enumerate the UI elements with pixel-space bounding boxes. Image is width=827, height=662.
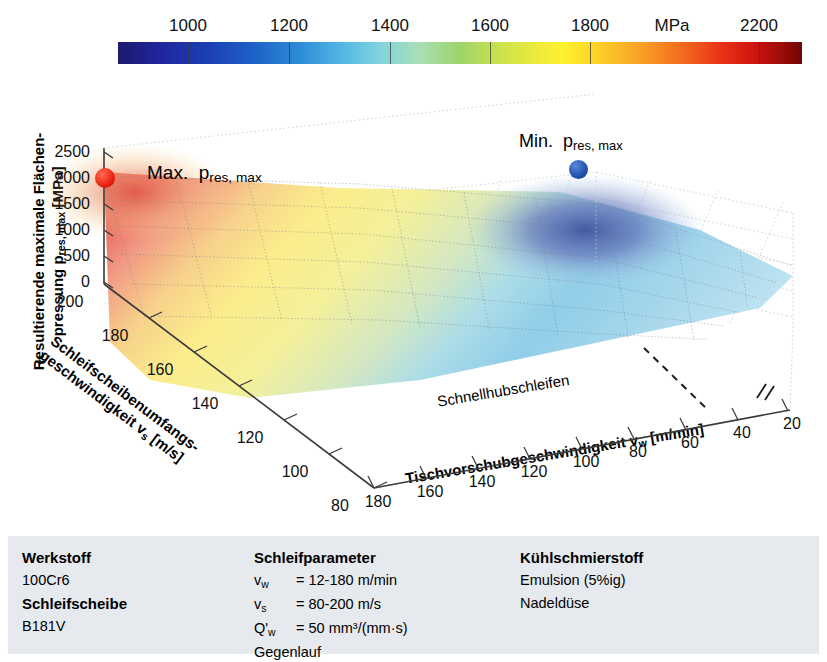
colorbar: 10001200140016001800MPa2200 [118,16,802,68]
region-boundary-dashed [644,348,708,410]
colorbar-tick [590,42,591,64]
info-column-coolant: Kühlschmierstoff Emulsion (5%ig) Nadeldü… [520,546,643,614]
colorbar-label: 1000 [169,16,207,36]
parameter-value: = 12-180 m/min [296,569,397,593]
z-tick-label: 140 [192,395,219,413]
x-axis-ticks [368,399,788,488]
colorbar-gradient [118,42,802,64]
z-tick-label: 80 [331,497,349,515]
colorbar-tick [188,42,189,64]
z-tick-label: 180 [102,327,129,345]
z-tick-label: 100 [282,463,309,481]
chart-figure: 10001200140016001800MPa2200 Resultierend… [0,0,827,662]
min-annotation: Min. pres, max [519,131,623,153]
coolant-value2: Nadeldüse [520,592,643,614]
max-marker-dot [95,168,115,188]
surface-plot [0,80,827,530]
z-tick-label: 160 [147,361,174,379]
parameter-value: = 50 mm³/(mm·s) [296,617,408,641]
min-marker-dot [569,160,588,179]
info-column-workpiece: Werkstoff 100Cr6 Schleifscheibe B181V [22,546,127,637]
colorbar-label: 2200 [740,16,778,36]
parameter-info-panel: Werkstoff 100Cr6 Schleifscheibe B181V Sc… [8,536,819,654]
y-tick-label: 0 [28,273,90,291]
x-tick-label: 20 [783,415,801,433]
parameter-symbol: vw [254,569,296,593]
y-tick-label: 1000 [28,221,90,239]
colorbar-label: 1600 [471,16,509,36]
parameter-value: = 80-200 m/s [296,593,381,617]
z-tick-label: 120 [237,429,264,447]
coolant-heading: Kühlschmierstoff [520,546,643,569]
colorbar-label: 1400 [371,16,409,36]
wheel-value: B181V [22,615,127,637]
info-column-parameters: Schleifparameter vw= 12-180 m/minvs= 80-… [254,546,408,662]
x-tick-label: 40 [733,424,751,442]
colorbar-labels: 10001200140016001800MPa2200 [118,16,802,40]
colorbar-label: MPa [655,16,690,36]
x-tick-label: 120 [521,463,548,481]
colorbar-label: 1200 [270,16,308,36]
x-tick-label: 160 [417,483,444,501]
x-tick-label: 180 [365,493,392,511]
parameter-row: Q'w= 50 mm³/(mm·s) [254,617,408,641]
axis-break-icon [757,384,774,400]
parameter-row: vs= 80-200 m/s [254,593,408,617]
parameter-symbol: vs [254,593,296,617]
y-tick-label: 2000 [28,169,90,187]
colorbar-label: 1800 [571,16,609,36]
colorbar-tick [490,42,491,64]
colorbar-tick [759,42,760,64]
x-tick-label: 60 [681,434,699,452]
parameter-symbol: Q'w [254,617,296,641]
y-tick-label: 500 [28,247,90,265]
x-tick-label: 80 [629,443,647,461]
colorbar-tick [390,42,391,64]
wheel-heading: Schleifscheibe [22,592,127,615]
parameters-heading: Schleifparameter [254,546,408,569]
workpiece-heading: Werkstoff [22,546,127,569]
z-tick-label: 200 [57,293,84,311]
x-tick-label: 100 [573,453,600,471]
max-annotation: Max. pres, max [147,162,262,185]
workpiece-value: 100Cr6 [22,569,127,591]
y-tick-label: 1500 [28,195,90,213]
coolant-value1: Emulsion (5%ig) [520,569,643,591]
parameter-rows: vw= 12-180 m/minvs= 80-200 m/sQ'w= 50 mm… [254,569,408,640]
parameters-footer: Gegenlauf [254,641,408,662]
y-tick-label: 2500 [28,143,90,161]
x-tick-label: 140 [469,473,496,491]
colorbar-tick [289,42,290,64]
parameter-row: vw= 12-180 m/min [254,569,408,593]
